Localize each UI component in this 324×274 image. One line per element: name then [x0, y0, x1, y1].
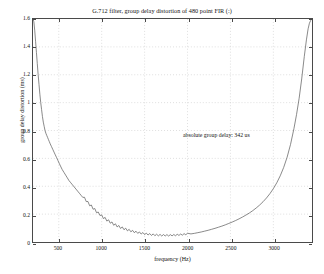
y-tick-label: 0.2 [2, 212, 30, 218]
chart-title: G.712 filter, group delay distortion of … [0, 7, 324, 14]
y-tick-label: 1.4 [2, 43, 30, 49]
x-axis-tick-labels: 50010001500200025003000 [32, 245, 313, 255]
x-tick-mark [145, 239, 146, 242]
y-tick-mark [33, 216, 36, 217]
figure-canvas: G.712 filter, group delay distortion of … [0, 0, 324, 274]
x-tick-label: 1000 [81, 245, 121, 251]
x-tick-mark-top [232, 19, 233, 22]
y-tick-label: 1 [2, 99, 30, 105]
y-tick-mark-right [309, 75, 312, 76]
y-tick-mark [33, 188, 36, 189]
y-tick-mark-right [309, 103, 312, 104]
y-tick-label: 0.8 [2, 128, 30, 134]
x-tick-mark [232, 239, 233, 242]
x-tick-mark-top [102, 19, 103, 22]
y-tick-label: 1.2 [2, 71, 30, 77]
gridlines-horizontal [33, 47, 312, 214]
y-tick-mark-right [309, 160, 312, 161]
x-tick-label: 500 [38, 245, 78, 251]
gridlines-vertical [59, 19, 274, 242]
y-tick-mark [33, 75, 36, 76]
y-tick-mark [33, 132, 36, 133]
y-tick-mark-right [309, 19, 312, 20]
y-tick-mark-right [309, 188, 312, 189]
y-tick-mark [33, 160, 36, 161]
x-tick-mark [59, 239, 60, 242]
x-tick-mark [275, 239, 276, 242]
x-tick-label: 2500 [211, 245, 251, 251]
y-tick-mark-right [309, 47, 312, 48]
y-tick-label: 0.6 [2, 156, 30, 162]
y-tick-mark [33, 19, 36, 20]
x-axis-label: frequency (Hz) [32, 256, 313, 262]
x-tick-mark-top [145, 19, 146, 22]
x-tick-mark-top [189, 19, 190, 22]
x-tick-mark-top [275, 19, 276, 22]
y-tick-label: 0.4 [2, 184, 30, 190]
y-tick-mark [33, 103, 36, 104]
y-axis-label: group delay distortion (ms) [19, 40, 25, 180]
y-tick-mark-right [309, 132, 312, 133]
annotation-absolute-group-delay: absolute group delay: 342 us [183, 132, 250, 138]
y-tick-mark [33, 47, 36, 48]
y-tick-label: 0 [2, 240, 30, 246]
x-tick-label: 1500 [124, 245, 164, 251]
x-tick-mark [102, 239, 103, 242]
data-series-line [33, 19, 312, 236]
y-tick-label: 1.6 [2, 15, 30, 21]
x-tick-mark-top [59, 19, 60, 22]
curve-plot [33, 19, 312, 242]
x-tick-label: 3000 [254, 245, 294, 251]
plot-area: absolute group delay: 342 us [32, 18, 313, 243]
x-tick-label: 2000 [168, 245, 208, 251]
x-tick-mark [189, 239, 190, 242]
y-tick-mark-right [309, 216, 312, 217]
